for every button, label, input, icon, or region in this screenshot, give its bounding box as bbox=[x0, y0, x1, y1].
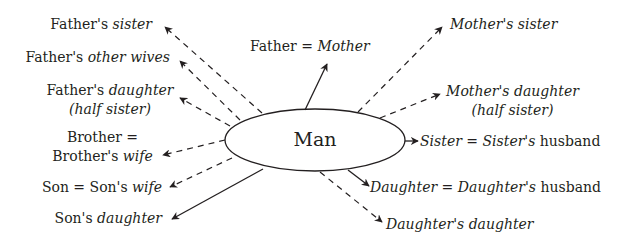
label-text-italic: sister bbox=[113, 16, 152, 32]
label-text-italic: (half sister) bbox=[472, 102, 554, 118]
label-text: Son = Son's bbox=[42, 179, 132, 195]
label-text-italic: (half sister) bbox=[69, 101, 151, 117]
label-text-italic: Daughter's bbox=[458, 179, 536, 195]
label-daughters-daughter: Daughter's daughter bbox=[386, 215, 534, 234]
label-text: Father = bbox=[250, 38, 317, 54]
label-text-italic: Daughter's daughter bbox=[386, 216, 534, 232]
label-text: Brother's bbox=[52, 148, 123, 164]
arrow-fathers-other-wives bbox=[180, 61, 240, 120]
arrow-mothers-daughter bbox=[380, 94, 440, 118]
arrow-daughter bbox=[348, 170, 369, 186]
label-son: Son = Son's wife bbox=[20, 178, 162, 197]
label-text-italic: Mother's daughter bbox=[446, 83, 579, 99]
label-text: = bbox=[437, 179, 458, 195]
label-text-italic: daughter bbox=[97, 210, 162, 226]
label-text: husband bbox=[536, 179, 601, 195]
label-text-italic: Mother bbox=[317, 38, 369, 54]
label-text: = bbox=[462, 133, 483, 149]
label-text: Brother = bbox=[45, 128, 160, 147]
arrow-brother bbox=[163, 140, 225, 155]
label-text-italic: Mother's sister bbox=[450, 16, 557, 32]
label-text: Father's bbox=[46, 82, 108, 98]
label-sons-daughter: Son's daughter bbox=[40, 209, 162, 228]
label-text-italic: Sister bbox=[420, 133, 462, 149]
label-mothers-daughter: Mother's daughter (half sister) bbox=[440, 82, 585, 120]
label-daughter: Daughter = Daughter's husband bbox=[370, 178, 601, 197]
arrow-mothers-sister bbox=[358, 27, 442, 112]
label-text-italic: wife bbox=[132, 179, 162, 195]
label-mothers-sister: Mother's sister bbox=[450, 15, 557, 34]
label-fathers-daughter: Father's daughter (half sister) bbox=[40, 81, 180, 119]
label-text: Son's bbox=[55, 210, 98, 226]
center-label-man: Man bbox=[275, 128, 355, 150]
arrow-son bbox=[170, 158, 232, 187]
arrow-sons-daughter bbox=[172, 169, 263, 219]
label-text-italic: wife bbox=[123, 148, 153, 164]
label-text-italic: daughter bbox=[109, 82, 174, 98]
label-text: husband bbox=[535, 133, 600, 149]
label-fathers-sister: Father's sister bbox=[40, 15, 152, 34]
label-text: Father's bbox=[25, 49, 87, 65]
label-father: Father = Mother bbox=[250, 37, 370, 56]
label-text: Father's bbox=[50, 16, 112, 32]
label-text-italic: Daughter bbox=[370, 179, 437, 195]
label-text-italic: other wives bbox=[88, 49, 170, 65]
label-sister: Sister = Sister's husband bbox=[420, 132, 600, 151]
label-brother: Brother = Brother's wife bbox=[45, 128, 160, 166]
label-fathers-other-wives: Father's other wives bbox=[10, 48, 170, 67]
arrow-father bbox=[305, 64, 327, 110]
label-text-italic: Sister's bbox=[483, 133, 536, 149]
